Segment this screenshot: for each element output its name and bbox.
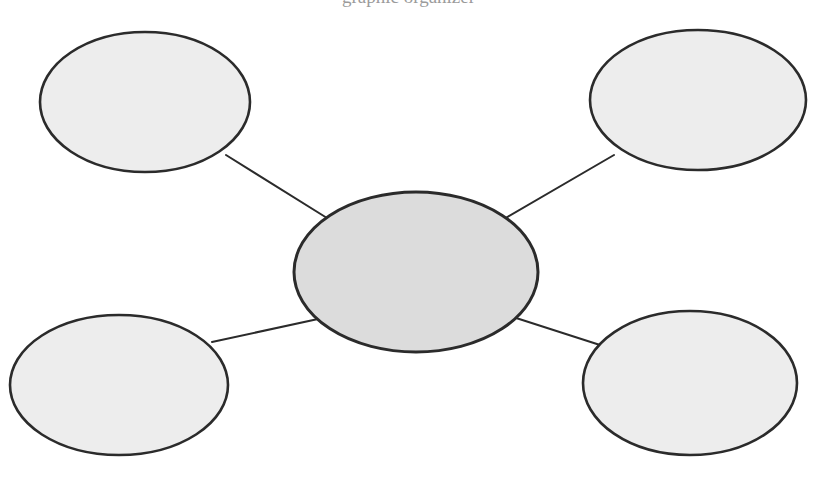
center-ellipse-shape[interactable] xyxy=(294,192,538,352)
satellite-ellipse-top-right[interactable] xyxy=(590,30,806,170)
connector-bottom-right-line xyxy=(513,317,600,345)
bottom-left-ellipse-shape[interactable] xyxy=(10,315,228,455)
bottom-right-ellipse-shape[interactable] xyxy=(583,311,797,455)
top-right-ellipse-shape[interactable] xyxy=(590,30,806,170)
connector-bottom-left-line xyxy=(212,319,318,342)
connector-top-right-line xyxy=(504,155,614,219)
center-ellipse[interactable] xyxy=(294,192,538,352)
satellite-ellipse-bottom-left[interactable] xyxy=(10,315,228,455)
satellite-ellipse-bottom-right[interactable] xyxy=(583,311,797,455)
top-left-ellipse-shape[interactable] xyxy=(40,32,250,172)
cluster-web-diagram xyxy=(0,0,817,481)
satellite-ellipse-top-left[interactable] xyxy=(40,32,250,172)
connector-top-left-line xyxy=(226,155,327,218)
diagram-canvas: graphic organizer xyxy=(0,0,817,481)
